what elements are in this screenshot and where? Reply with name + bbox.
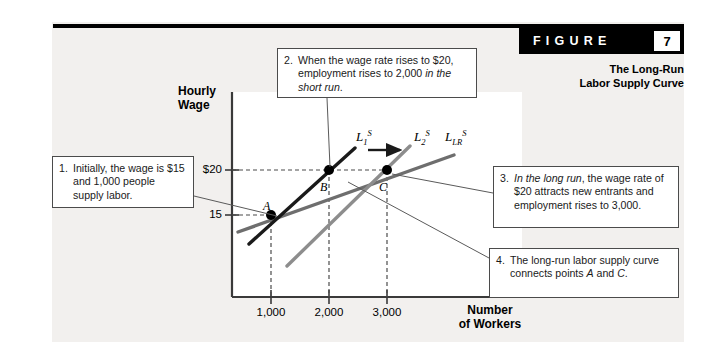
callout-1-number: 1. [59, 162, 68, 175]
callout-2-text: When the wage rate rises to $20, employm… [284, 54, 470, 94]
callout-box-2: 2. When the wage rate rises to $20, empl… [277, 48, 477, 98]
leader-line-callout-2 [327, 98, 330, 167]
data-point-B [324, 165, 334, 175]
callout-box-1: 1. Initially, the wage is $15 and 1,000 … [52, 156, 194, 208]
leader-line-callout-4 [348, 182, 489, 258]
figure-container: FIGURE 7 The Long-Run Labor Supply Curve… [0, 0, 706, 355]
callout-1-text: Initially, the wage is $15 and 1,000 peo… [59, 162, 187, 202]
callout-4-text-mid: and [594, 267, 618, 279]
callout-3-text: In the long run, the wage rate of $20 at… [500, 172, 672, 212]
callout-4-text-pre: The long-run labor supply curve connects… [510, 254, 659, 279]
callout-box-3: 3. In the long run, the wage rate of $20… [493, 166, 679, 228]
callout-2-text-post: . [340, 81, 343, 93]
leader-line-callout-1 [194, 196, 277, 216]
callout-4-text-italic-a: A [587, 267, 594, 279]
callout-4-text: The long-run labor supply curve connects… [496, 254, 672, 281]
callout-3-text-italic: In the long run [514, 172, 582, 184]
callout-2-number: 2. [284, 54, 293, 67]
callout-4-text-italic-c: C [617, 267, 625, 279]
curve-long-run-supply [238, 155, 454, 232]
data-point-C [382, 165, 392, 175]
callout-3-number: 3. [500, 172, 509, 185]
callout-box-4: 4. The long-run labor supply curve conne… [489, 248, 679, 298]
callout-4-number: 4. [496, 254, 505, 267]
leader-line-callout-3 [392, 174, 493, 193]
callout-4-text-post: . [625, 267, 628, 279]
